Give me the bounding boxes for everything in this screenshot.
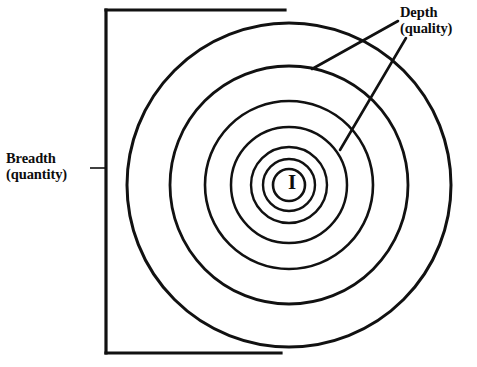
- diagram-figure: Breadth (quantity) Depth (quality) I: [0, 0, 477, 367]
- breadth-label: Breadth (quantity): [6, 150, 67, 182]
- breadth-bracket: [106, 10, 285, 353]
- diagram-canvas: [0, 0, 477, 367]
- depth-label-line-1: Depth: [400, 4, 452, 20]
- breadth-label-line-2: (quantity): [6, 166, 67, 182]
- depth-label-line-2: (quality): [400, 20, 452, 36]
- depth-label: Depth (quality): [400, 4, 452, 36]
- breadth-label-line-1: Breadth: [6, 150, 67, 166]
- center-letter-label: I: [285, 172, 299, 193]
